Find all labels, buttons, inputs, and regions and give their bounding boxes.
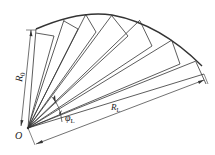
inner-ribs [28,29,180,128]
label-r0: R0 [13,71,27,83]
label-r0-sub: 0 [19,72,27,77]
label-phi-sub: L [71,117,75,125]
origin-point [27,127,29,129]
label-origin: O [15,130,22,141]
label-rl-sub: L [117,107,121,113]
label-rl: RL [110,102,121,113]
bracing-segments [36,15,206,84]
fan-rib-diagram: O R0 RL φL [0,0,215,155]
